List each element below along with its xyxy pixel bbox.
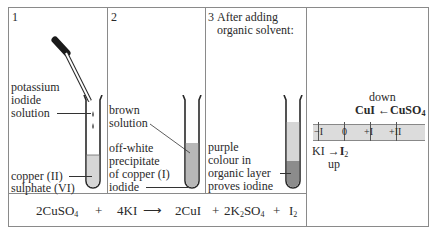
dropper-pointer-line [57,113,91,114]
reduction-formula: CuI ←CuSO4 [355,104,425,116]
iodine-pointer-line [280,173,291,174]
panel-divider-1 [107,7,108,194]
precipitate-pointer-line [146,187,188,188]
reaction-arrow-icon: ⟶ [143,203,162,219]
scale-tick-label: −I [314,126,323,138]
product-cui: 2CuI [175,203,201,219]
plus-sign: + [273,203,280,219]
iodine-label-line4: proves iodine [208,180,273,192]
plus-sign: + [95,203,102,219]
precipitate-label-line3: of copper (I) [109,168,170,180]
iodine-label-line3: organic layer [208,167,271,179]
cuso4-formula: CuSO [390,103,421,117]
panel-number: 2 [111,10,117,25]
up-label: up [328,158,340,170]
dropper-label-line2: iodide [11,94,41,106]
panel-title-line1: After adding [217,11,278,23]
precipitate-label-line2: precipitate [109,155,160,167]
solution-label-line2: solution [109,117,148,129]
test-tube-icon [282,95,304,195]
scale-tick-label: +I [364,126,373,138]
tube-pointer-line [69,176,92,177]
solution-pointer-line [150,123,192,155]
iodine-label-line1: purple [208,141,239,153]
oxidation-formula: KI →I2 [312,145,348,157]
panel-number: 1 [12,10,18,25]
iodine-label-line2: colour in [208,154,251,166]
reactant-ki: 4KI [117,203,137,219]
tube-label-line2: sulphate (VI) [11,182,75,194]
panel-number: 3 [208,10,214,25]
dropper-label-line1: potassium [11,81,60,93]
precipitate-label-line4: iodide [109,181,139,193]
scale-tick-label: 0 [342,126,347,138]
left-arrow-icon: ← [378,103,390,117]
solution-label-line1: brown [109,104,140,116]
test-tube-icon [82,95,104,195]
oxidation-diagram-frame [306,7,429,227]
cui-formula: CuI [355,103,375,117]
reactant-cuso4: 2CuSO4 [36,203,78,219]
product-k2so4: 2K2SO4 [224,203,265,219]
panel-divider-2 [205,7,206,194]
precipitate-label-line1: off-white [109,142,153,154]
right-arrow-icon: → [328,144,340,158]
product-i2: I2 [289,203,297,219]
scale-tick-label: +II [389,126,401,138]
ki-formula: KI [312,144,325,158]
dropper-label-line3: solution [11,107,50,119]
down-label: down [369,91,396,103]
plus-sign: + [212,203,219,219]
panel-title-line2: organic solvent: [217,24,294,36]
